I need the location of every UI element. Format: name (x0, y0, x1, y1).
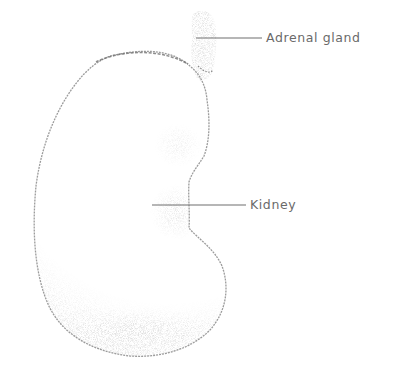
kidney-label: Kidney (250, 197, 296, 212)
adrenal-gland-label: Adrenal gland (266, 30, 361, 45)
kidney-diagram (0, 0, 401, 378)
